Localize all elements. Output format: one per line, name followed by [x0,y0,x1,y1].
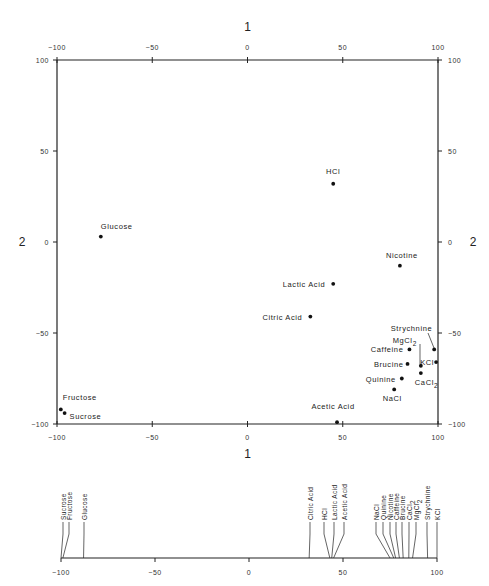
x-tick-bottom: 50 [338,434,347,441]
x-tick-bottom: 100 [431,434,444,441]
data-point-kcl: KCl [420,358,438,367]
data-point-brucine: Brucine [374,360,410,369]
data-point-caffeine: Caffeine [371,345,412,354]
data-point-acetic-acid: Acetic Acid [311,402,354,424]
y-tick-right: −50 [448,330,461,337]
svg-text:Glucose: Glucose [101,222,133,231]
data-point-quinine: Quinine [366,375,404,384]
data-point-citric-acid: Citric Acid [262,313,312,322]
strip-item-hcl: HCl [321,508,330,558]
data-point-nacl: NaCl [383,388,402,404]
svg-text:KCl: KCl [434,508,441,520]
y-tick-left: 100 [36,57,49,64]
svg-text:Citric Acid: Citric Acid [262,313,302,322]
strip-tick: 0 [247,569,251,576]
svg-text:Quinine: Quinine [366,375,396,384]
x-axis-title-bottom: 1 [244,447,251,461]
y-tick-right: 0 [448,239,452,246]
x-tick-top: −50 [146,44,159,51]
data-point-cacl2: CaCl2 [415,371,438,389]
svg-text:Nicotine: Nicotine [386,251,418,260]
strip-item-citric-acid: Citric Acid [307,487,314,558]
data-point-lactic-acid: Lactic Acid [283,280,335,289]
strip-tick: 100 [430,569,443,576]
scatter-plot: −100−100−50−50005050100100−100−100−50−50… [19,20,477,461]
svg-text:Sucrose: Sucrose [70,412,102,421]
y-tick-left: −50 [36,330,49,337]
y-tick-left: 0 [45,239,49,246]
svg-text:Lactic Acid: Lactic Acid [331,485,338,520]
svg-text:HCl: HCl [321,508,328,520]
svg-text:Strychnine: Strychnine [391,324,432,333]
y-axis-title-left: 2 [19,235,26,249]
strip-item-kcl: KCl [434,508,441,558]
svg-text:Glucose: Glucose [81,493,88,520]
x-tick-top: 50 [338,44,347,51]
x-tick-bottom: −50 [146,434,159,441]
svg-text:Strychnine: Strychnine [424,485,432,520]
strip-tick: −50 [148,569,161,576]
y-tick-left: −100 [31,421,49,428]
svg-text:HCl: HCl [326,167,340,176]
y-tick-right: 100 [448,57,461,64]
x-tick-top: 100 [431,44,444,51]
y-tick-right: 50 [448,148,457,155]
x-axis-title-top: 1 [244,20,251,34]
data-point-sucrose: Sucrose [63,411,102,421]
data-point-fructose: Fructose [59,393,97,411]
svg-text:Acetic Acid: Acetic Acid [311,402,354,411]
svg-text:Fructose: Fructose [66,492,73,521]
svg-text:Lactic Acid: Lactic Acid [283,280,325,289]
strip-tick: 50 [339,569,348,576]
strip-item-brucine: Brucine [399,495,406,558]
strip-item-strychnine: Strychnine [424,485,432,558]
strip-tick: −100 [52,569,70,576]
svg-text:Brucine: Brucine [399,495,406,520]
svg-text:Acetic Acid: Acetic Acid [341,484,348,520]
svg-text:Fructose: Fructose [63,393,97,402]
svg-text:Caffeine: Caffeine [371,345,404,354]
x-tick-bottom: −100 [48,434,66,441]
x-tick-top: −100 [48,44,66,51]
strip-item-glucose: Glucose [81,493,88,558]
chart-svg: −100−100−50−50005050100100−100−100−50−50… [0,0,489,586]
y-tick-right: −100 [448,421,466,428]
y-tick-left: 50 [40,148,49,155]
strip-plot: −100−50050100SucroseFructoseGlucoseCitri… [52,484,443,576]
x-tick-top: 0 [245,44,249,51]
svg-text:NaCl: NaCl [383,394,402,403]
svg-text:NaCl: NaCl [373,504,380,520]
strip-item-lactic-acid: Lactic Acid [331,485,338,558]
svg-text:CaCl2: CaCl2 [415,378,438,389]
data-point-hcl: HCl [326,167,340,186]
svg-text:Citric Acid: Citric Acid [307,487,314,520]
strip-item-mgcl2: MgCl2 [413,499,423,558]
data-point-nicotine: Nicotine [386,251,418,268]
data-point-glucose: Glucose [99,222,133,239]
y-axis-title-right: 2 [470,235,477,249]
x-tick-bottom: 0 [245,434,249,441]
svg-text:KCl: KCl [420,358,434,367]
svg-text:Brucine: Brucine [374,360,404,369]
